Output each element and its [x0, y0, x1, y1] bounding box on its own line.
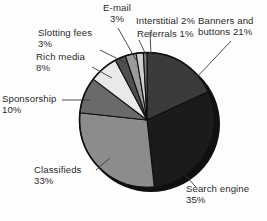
- pie-chart-figure: E-mail 3% Interstitial 2% Referrals 1% B…: [0, 0, 267, 221]
- pie-chart-canvas: [0, 0, 267, 221]
- leader-line-interstitial: [150, 32, 151, 55]
- leader-line-banners: [197, 41, 231, 77]
- pie-slice-classifieds: [80, 113, 155, 188]
